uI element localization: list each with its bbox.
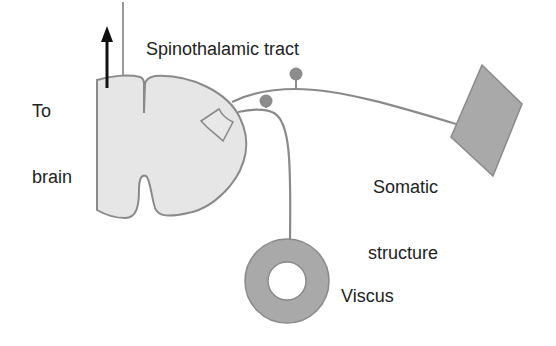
somatic-structure-icon [451,65,522,176]
to-brain-label: To brain [32,56,72,210]
viscus-lumen [268,262,306,300]
visceral-afferent-fiber [238,110,290,240]
visceral-ganglion-icon [260,95,273,108]
somatic-line2: structure [368,242,438,264]
somatic-structure-label: Somatic structure [368,132,438,286]
to-brain-line1: To [32,100,72,122]
arrow-up-icon [101,26,113,42]
spinal-cord-section [97,76,246,218]
somatic-line1: Somatic [368,176,438,198]
somatic-ganglion-icon [290,68,303,81]
spinothalamic-tract-label: Spinothalamic tract [146,38,299,60]
viscus-label: Viscus [341,285,394,307]
to-brain-line2: brain [32,166,72,188]
